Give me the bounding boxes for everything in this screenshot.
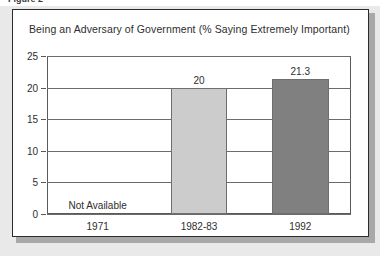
xtick-label-1992: 1992 <box>289 221 311 232</box>
ytick-label-15: 15 <box>27 114 38 125</box>
chart-title: Being an Adversary of Government (% Sayi… <box>29 23 350 35</box>
ytick-mark-25 <box>41 56 46 57</box>
ytick-label-25: 25 <box>27 51 38 62</box>
figure-caption: Figure 2 <box>8 0 54 5</box>
plot: 25 20 15 10 5 0 <box>47 56 351 214</box>
category-slot-1971: Not Available 1971 <box>47 56 148 214</box>
not-available-label: Not Available <box>69 200 127 211</box>
ytick-mark-0 <box>41 214 46 215</box>
xtick-label-1971: 1971 <box>87 221 109 232</box>
bar-1992[interactable]: 21.3 <box>272 79 329 214</box>
ytick-mark-20 <box>41 88 46 89</box>
bar-1982-83[interactable]: 20 <box>171 88 228 214</box>
gridline-0: 0 <box>47 214 351 215</box>
bar-value-1982-83: 20 <box>193 75 204 86</box>
bar-value-1992: 21.3 <box>291 66 310 77</box>
ytick-mark-10 <box>41 151 46 152</box>
figure-frame: Being an Adversary of Government (% Sayi… <box>12 9 369 237</box>
ytick-label-5: 5 <box>32 177 38 188</box>
category-slot-1982-83: 20 1982-83 <box>148 56 249 214</box>
ytick-label-0: 0 <box>32 209 38 220</box>
figure-root: Figure 2 Being an Adversary of Governmen… <box>0 0 380 256</box>
ytick-label-20: 20 <box>27 82 38 93</box>
xtick-label-1982-83: 1982-83 <box>181 221 218 232</box>
category-slot-1992: 21.3 1992 <box>250 56 351 214</box>
ytick-mark-15 <box>41 119 46 120</box>
ytick-mark-5 <box>41 182 46 183</box>
figure-caption-text: Figure 2 <box>8 0 43 4</box>
ytick-label-10: 10 <box>27 145 38 156</box>
